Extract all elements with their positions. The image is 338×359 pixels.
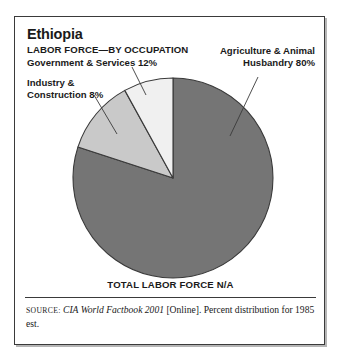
source-note: SOURCE: CIA World Factbook 2001 [Online]… [26,304,316,330]
source-work-title: CIA World Factbook 2001 [63,304,164,315]
source-label: SOURCE: [26,306,61,315]
figure-frame: Ethiopia LABOR FORCE—BY OCCUPATION Gover… [14,16,325,345]
source-divider [25,297,316,298]
total-labor-force-caption: TOTAL LABOR FORCE N/A [15,279,326,290]
